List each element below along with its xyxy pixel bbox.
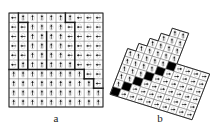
up-arrow-icon [40, 62, 44, 68]
up-arrow-icon [40, 52, 44, 58]
up-arrow-icon [68, 62, 72, 68]
right-arrow-icon [163, 79, 167, 85]
up-arrow-icon [40, 15, 44, 21]
up-arrow-icon [178, 41, 181, 47]
up-arrow-icon [126, 58, 129, 64]
up-arrow-icon [49, 52, 53, 58]
up-arrow-icon [31, 15, 35, 21]
up-arrow-icon [59, 24, 63, 30]
up-arrow-icon [40, 90, 44, 96]
left-arrow-icon [96, 43, 101, 49]
right-arrow-icon [196, 89, 200, 95]
up-arrow-icon [59, 33, 63, 39]
left-arrow-icon [77, 15, 82, 21]
left-arrow-icon [86, 71, 91, 77]
up-arrow-icon [131, 68, 134, 74]
up-arrow-icon [31, 62, 35, 68]
up-arrow-icon [151, 41, 154, 47]
up-arrow-icon [173, 56, 176, 62]
left-arrow-icon [21, 33, 26, 39]
up-arrow-icon [49, 15, 53, 21]
left-arrow-icon [86, 52, 91, 58]
panel-b-caption: b [150, 112, 170, 124]
up-arrow-icon [40, 71, 44, 77]
up-arrow-icon [68, 99, 72, 105]
left-arrow-icon [96, 71, 101, 77]
up-arrow-icon [59, 52, 63, 58]
right-arrow-icon [182, 102, 186, 108]
up-arrow-icon [40, 43, 44, 49]
right-arrow-icon [152, 84, 156, 90]
right-arrow-icon [199, 81, 203, 87]
left-arrow-icon [96, 52, 101, 58]
right-arrow-icon [141, 89, 145, 95]
left-arrow-icon [96, 15, 101, 21]
up-arrow-icon [31, 71, 35, 77]
up-arrow-icon [181, 33, 184, 39]
up-arrow-icon [78, 99, 82, 105]
up-arrow-icon [59, 15, 63, 21]
up-arrow-icon [87, 99, 91, 105]
left-arrow-icon [96, 62, 101, 68]
up-arrow-icon [128, 76, 131, 82]
left-arrow-icon [11, 43, 16, 49]
right-arrow-icon [188, 86, 192, 92]
up-arrow-icon [21, 15, 25, 21]
right-arrow-icon [157, 94, 161, 100]
up-arrow-icon [49, 62, 53, 68]
up-arrow-icon [137, 53, 140, 59]
up-arrow-icon [150, 66, 153, 72]
right-arrow-icon [122, 91, 126, 97]
up-arrow-icon [145, 56, 148, 62]
left-arrow-icon [21, 24, 26, 30]
left-arrow-icon [77, 52, 82, 58]
up-arrow-icon [21, 71, 25, 77]
up-arrow-icon [164, 53, 167, 59]
up-arrow-icon [59, 62, 63, 68]
right-arrow-icon [174, 99, 178, 105]
right-arrow-icon [185, 94, 189, 100]
panel-a-caption: a [46, 112, 66, 124]
up-arrow-icon [142, 63, 145, 69]
left-arrow-icon [11, 15, 16, 21]
right-arrow-icon [193, 96, 197, 102]
left-arrow-icon [68, 33, 73, 39]
up-arrow-icon [40, 24, 44, 30]
up-arrow-icon [59, 80, 63, 86]
right-arrow-icon [179, 109, 183, 115]
right-arrow-icon [177, 91, 181, 97]
up-arrow-icon [159, 43, 162, 49]
up-arrow-icon [40, 80, 44, 86]
up-arrow-icon [49, 99, 53, 105]
up-arrow-icon [78, 90, 82, 96]
up-arrow-icon [49, 33, 53, 39]
figure-root: a b [0, 0, 219, 134]
up-arrow-icon [49, 24, 53, 30]
right-arrow-icon [180, 84, 184, 90]
up-arrow-icon [21, 80, 25, 86]
up-arrow-icon [59, 99, 63, 105]
right-arrow-icon [183, 76, 187, 82]
up-arrow-icon [68, 15, 72, 21]
up-arrow-icon [87, 90, 91, 96]
up-arrow-icon [123, 66, 126, 72]
left-arrow-icon [96, 24, 101, 30]
up-arrow-icon [21, 99, 25, 105]
right-arrow-icon [187, 112, 191, 118]
up-arrow-icon [120, 74, 123, 80]
left-arrow-icon [21, 43, 26, 49]
left-arrow-icon [96, 33, 101, 39]
right-arrow-icon [171, 81, 175, 87]
right-arrow-icon [166, 71, 170, 77]
up-arrow-icon [87, 80, 91, 86]
up-arrow-icon [162, 35, 165, 41]
right-arrow-icon [177, 66, 181, 72]
up-arrow-icon [12, 99, 16, 105]
up-arrow-icon [140, 46, 143, 52]
up-arrow-icon [68, 80, 72, 86]
left-arrow-icon [86, 24, 91, 30]
right-arrow-icon [191, 79, 195, 85]
up-arrow-icon [31, 24, 35, 30]
right-arrow-icon [146, 99, 150, 105]
up-arrow-icon [12, 80, 16, 86]
